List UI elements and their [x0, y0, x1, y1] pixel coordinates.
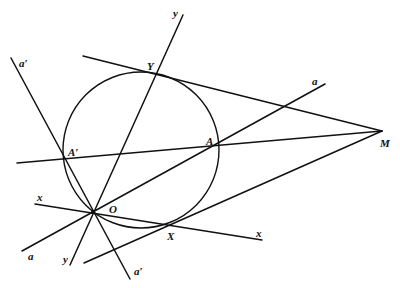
geometry-diagram: O Y A A′ X M y y a a a′ a′ x x	[0, 0, 400, 288]
point-O-dot	[91, 210, 95, 214]
label-line-a-prime-bottom: a′	[134, 265, 143, 277]
line-y	[70, 15, 183, 265]
label-line-a-top: a	[312, 75, 318, 87]
label-line-x-left: x	[36, 191, 43, 203]
label-point-O: O	[109, 203, 117, 215]
label-point-A: A	[205, 135, 213, 147]
tangent-MY	[83, 56, 382, 131]
line-a-prime	[11, 58, 130, 279]
label-line-y-top: y	[171, 7, 178, 19]
label-point-Y: Y	[147, 60, 155, 72]
label-line-a-prime-top: a′	[19, 57, 28, 69]
label-line-x-right: x	[255, 227, 262, 239]
label-line-a-bottom: a	[28, 250, 34, 262]
label-point-X: X	[166, 230, 175, 242]
label-line-y-bottom: y	[61, 253, 68, 265]
tangent-MX	[84, 131, 382, 263]
circle	[63, 72, 219, 228]
label-point-M: M	[379, 137, 391, 149]
label-point-A-prime: A′	[67, 146, 78, 158]
